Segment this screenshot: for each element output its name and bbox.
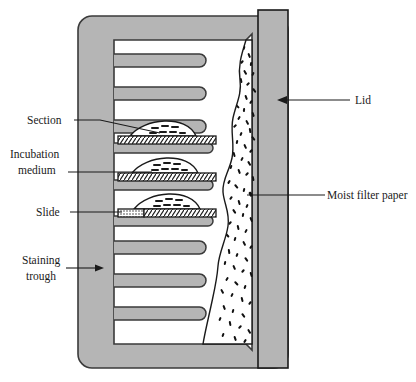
slot-ridge	[108, 54, 206, 67]
diagram-figure: Section Incubation medium Slide Staining…	[0, 0, 416, 382]
label-lid: Lid	[355, 94, 371, 106]
label-incubation-medium-line2: medium	[18, 164, 56, 176]
label-incubation-medium-line1: Incubation	[10, 148, 59, 160]
label-staining-trough-line2: trough	[26, 270, 56, 283]
label-staining-trough-line1: Staining	[22, 254, 61, 267]
slot-ridge-group	[108, 54, 213, 320]
glass-slide	[144, 209, 216, 217]
slide-frosted-end	[118, 209, 144, 217]
glass-slide	[118, 173, 216, 181]
lid-panel	[258, 10, 288, 368]
label-moist-filter-paper: Moist filter paper	[327, 189, 408, 202]
staining-trough-diagram: Section Incubation medium Slide Staining…	[0, 0, 416, 382]
label-slide: Slide	[36, 206, 60, 218]
slot-ridge	[108, 87, 206, 100]
label-section: Section	[27, 114, 62, 126]
slot-ridge	[108, 274, 206, 287]
slot-ridge	[108, 241, 206, 254]
glass-slide	[118, 136, 216, 144]
lid	[258, 10, 288, 368]
slot-ridge	[108, 307, 206, 320]
